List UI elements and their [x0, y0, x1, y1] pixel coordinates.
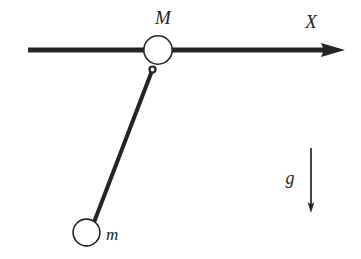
- axis-label: X: [304, 11, 318, 32]
- cart-mass-label: M: [154, 7, 172, 28]
- diagram-background: [0, 0, 361, 259]
- cart-mass-circle: [144, 36, 172, 64]
- bob-mass-circle: [73, 219, 100, 246]
- physics-diagram-canvas: M m X g: [0, 0, 361, 259]
- bob-mass-label: m: [106, 225, 118, 244]
- gravity-label: g: [286, 168, 295, 188]
- physics-diagram-svg: M m X g: [0, 0, 361, 259]
- pivot-joint-circle: [150, 67, 156, 73]
